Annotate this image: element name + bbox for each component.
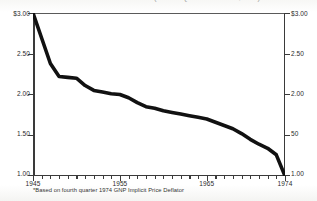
x-axis-label-1965: 1965 — [199, 180, 214, 187]
chart-footnote: *Based on fourth quarter 1974 GNP Implic… — [33, 187, 184, 193]
y-tick-right-1-50 — [285, 135, 290, 136]
x-tick-1968 — [233, 176, 234, 179]
chart-title: THE SHRINKING DOLLAR (Fourth Quarter 197… — [0, 0, 317, 2]
y-axis-label-left-2-00: 2.00 — [0, 90, 30, 97]
chart-page: THE SHRINKING DOLLAR (Fourth Quarter 197… — [0, 0, 317, 201]
x-tick-1962 — [181, 176, 182, 179]
x-tick-1961 — [172, 176, 173, 179]
x-tick-1957 — [137, 176, 138, 179]
y-axis-label-left-2-50: 2.50 — [0, 50, 30, 57]
y-axis-label-right-2-50: 2.50 — [291, 50, 317, 57]
x-tick-1960 — [163, 176, 164, 179]
x-tick-1973 — [276, 176, 277, 179]
plot-area — [33, 13, 285, 176]
y-tick-right-3-00 — [285, 13, 290, 14]
data-line-purchasing-power — [33, 13, 285, 176]
x-tick-1952 — [94, 176, 95, 179]
y-tick-right-2-50 — [285, 54, 290, 55]
x-axis-label-1955: 1955 — [112, 180, 127, 187]
y-axis-label-left-1-50: 1.50 — [0, 130, 30, 137]
x-tick-1954 — [111, 176, 112, 179]
x-tick-1970 — [250, 176, 251, 179]
x-tick-1963 — [189, 176, 190, 179]
y-axis-label-right-2-00: 2.00 — [291, 90, 317, 97]
x-axis-label-1974: 1974 — [278, 180, 293, 187]
x-tick-1948 — [59, 176, 60, 179]
x-axis-label-1945: 1945 — [26, 180, 41, 187]
y-axis-label-left-3-00: $3.00 — [0, 10, 30, 17]
x-tick-1949 — [68, 176, 69, 179]
x-tick-1969 — [242, 176, 243, 179]
y-tick-right-2-00 — [285, 94, 290, 95]
x-tick-1950 — [76, 176, 77, 179]
x-tick-1972 — [268, 176, 269, 179]
x-tick-1959 — [155, 176, 156, 179]
x-tick-1967 — [224, 176, 225, 179]
y-axis-label-right-1-00: 1.00 — [291, 170, 317, 177]
x-tick-1946 — [42, 176, 43, 179]
x-tick-1964 — [198, 176, 199, 179]
x-tick-1971 — [259, 176, 260, 179]
x-tick-1947 — [50, 176, 51, 179]
y-axis-label-left-1-00: 1.00 — [0, 170, 30, 177]
y-axis-label-right-1-50: 50 — [291, 130, 317, 137]
y-axis-label-right-3-00: $3.00 — [291, 10, 317, 17]
x-tick-1966 — [215, 176, 216, 179]
x-tick-1951 — [85, 176, 86, 179]
x-tick-1958 — [146, 176, 147, 179]
x-tick-1953 — [103, 176, 104, 179]
x-tick-1956 — [129, 176, 130, 179]
